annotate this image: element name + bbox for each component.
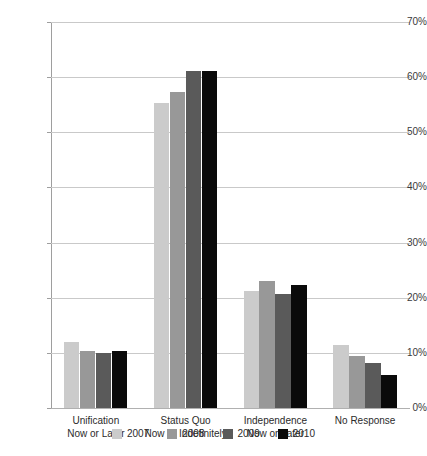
bar-2010-1[interactable] (112, 351, 127, 408)
bar-2007-1[interactable] (64, 342, 79, 408)
legend-item-2009[interactable]: 2009 (223, 429, 260, 439)
plot-area (51, 22, 410, 408)
bar-2008-1[interactable] (80, 351, 95, 408)
bar-2007-4[interactable] (333, 345, 348, 408)
y-tick-mark (47, 408, 51, 409)
x-axis-label-4: No Response (320, 414, 410, 427)
bar-2008-4[interactable] (349, 356, 364, 408)
legend-item-2007[interactable]: 2007 (112, 429, 149, 439)
x-axis-label-line1: Unification (73, 415, 120, 426)
legend-swatch-icon (223, 429, 233, 439)
bar-2010-3[interactable] (291, 285, 306, 408)
legend-swatch-icon (278, 429, 288, 439)
legend-label: 2007 (127, 429, 149, 439)
bar-2009-1[interactable] (96, 353, 111, 408)
legend-label: 2008 (182, 429, 204, 439)
bar-group (333, 22, 397, 408)
bar-2010-2[interactable] (202, 71, 217, 408)
bar-2007-3[interactable] (244, 291, 259, 408)
bar-2010-4[interactable] (381, 375, 396, 408)
x-axis-label-line1: Status Quo (161, 415, 211, 426)
legend-item-2008[interactable]: 2008 (167, 429, 204, 439)
bar-group (154, 22, 218, 408)
chart-legend: 2007200820092010 (0, 429, 427, 439)
legend-swatch-icon (112, 429, 122, 439)
bar-2009-4[interactable] (365, 363, 380, 408)
legend-label: 2009 (238, 429, 260, 439)
bar-chart: 0%10%20%30%40%50%60%70% UnificationNow o… (0, 0, 427, 456)
x-axis-label-line1: No Response (335, 415, 396, 426)
bar-2009-2[interactable] (186, 71, 201, 408)
bar-group (64, 22, 128, 408)
bar-group (244, 22, 308, 408)
bar-2008-3[interactable] (259, 281, 274, 408)
legend-label: 2010 (293, 429, 315, 439)
gridline (51, 408, 410, 409)
legend-swatch-icon (167, 429, 177, 439)
legend-item-2010[interactable]: 2010 (278, 429, 315, 439)
bar-2007-2[interactable] (154, 103, 169, 408)
bar-2008-2[interactable] (170, 92, 185, 408)
x-axis-label-line1: Independence (244, 415, 307, 426)
bar-2009-3[interactable] (275, 294, 290, 408)
